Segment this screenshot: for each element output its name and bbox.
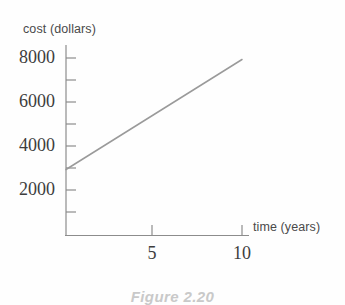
x-axis-ticks: [152, 225, 242, 235]
cost-line-series: [66, 60, 242, 170]
y-tick-label-2000: 2000: [3, 179, 55, 200]
x-tick-label-10: 10: [227, 243, 257, 264]
y-tick-label-8000: 8000: [3, 47, 55, 68]
y-axis-label: cost (dollars): [23, 22, 96, 36]
figure-container: cost (dollars) time (years) 8000 6000 40…: [0, 0, 345, 305]
y-tick-label-6000: 6000: [3, 91, 55, 112]
x-axis-label: time (years): [253, 220, 320, 234]
figure-caption: Figure 2.20: [0, 288, 345, 305]
y-axis-ticks: [66, 58, 76, 212]
y-tick-label-4000: 4000: [3, 135, 55, 156]
x-tick-label-5: 5: [137, 243, 167, 264]
